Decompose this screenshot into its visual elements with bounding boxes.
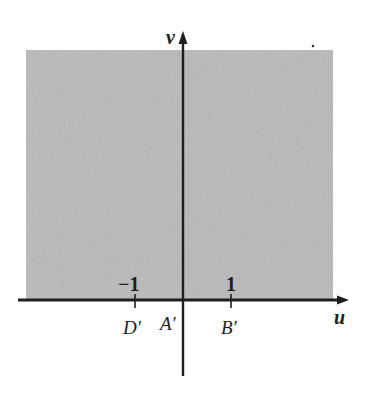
point-label-d-prime: D′: [123, 318, 141, 337]
tick-label-one: 1: [226, 274, 236, 294]
point-label-b-prime: B′: [221, 318, 237, 337]
v-axis-label: v: [166, 27, 175, 47]
stray-dot: [312, 45, 315, 48]
v-axis-arrow-icon: [179, 31, 188, 44]
uv-plane-diagram: v u −1 1 D′ A′ B′: [0, 0, 365, 396]
u-axis-label: u: [334, 307, 345, 327]
tick-label-minus-one: −1: [118, 274, 139, 294]
point-label-a-prime: A′: [160, 314, 176, 333]
shaded-region: [26, 50, 333, 300]
u-axis-arrow-icon: [337, 296, 349, 305]
